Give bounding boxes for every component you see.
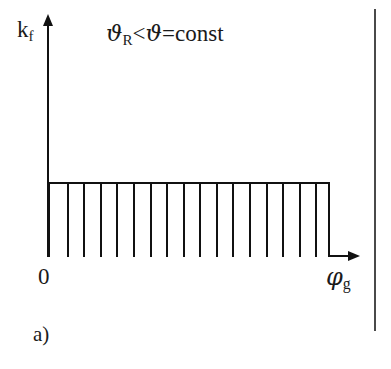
hatch-line [266,184,268,257]
constant-value-rectangle [48,182,330,257]
hatch-line [282,184,284,257]
y-axis-label-base: k [17,17,29,42]
x-axis-label: φg [326,265,351,292]
theta-symbol: ϑ [146,20,162,46]
theta-r-symbol: ϑ [106,20,122,46]
vertical-hatch-pattern [50,184,328,257]
x-axis-label-base: φ [326,263,343,291]
const-text: const [175,21,224,46]
hatch-line [216,184,218,257]
page-border-rule [374,9,376,331]
hatch-line [299,184,301,257]
x-axis-arrowhead-icon [348,251,360,261]
hatch-line [100,184,102,257]
hatch-line [133,184,135,257]
origin-label: 0 [38,265,50,288]
condition-annotation: ϑR<ϑ=const [106,22,224,47]
equals-operator: = [162,21,175,46]
hatch-line [232,184,234,257]
hatch-line [116,184,118,257]
y-axis-arrowhead-icon [43,14,53,26]
hatch-line [150,184,152,257]
y-axis-label-subscript: f [29,27,34,44]
x-axis-label-subscript: g [343,275,351,292]
figure-caption: a) [33,324,49,345]
figure-canvas: kf φg 0 ϑR<ϑ=const a) [0,0,391,369]
hatch-line [249,184,251,257]
hatch-line [67,184,69,257]
hatch-line [166,184,168,257]
theta-r-subscript: R [122,31,132,48]
hatch-line [83,184,85,257]
y-axis-label: kf [17,18,34,43]
hatch-line [199,184,201,257]
less-than-operator: < [133,21,146,46]
hatch-line [183,184,185,257]
hatch-line [315,184,317,257]
